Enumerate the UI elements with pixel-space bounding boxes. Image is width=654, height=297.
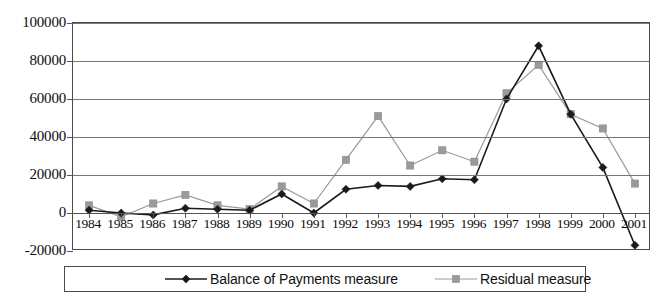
chart-container: 100000800006000040000200000-20000 198419… (0, 0, 654, 297)
y-axis: 100000800006000040000200000-20000 (0, 0, 72, 297)
gridline-0 (73, 213, 649, 214)
legend-label: Residual measure (480, 271, 591, 287)
y-axis-tick-mark (67, 61, 73, 62)
y-axis-tick-mark (67, 137, 73, 138)
x-axis-tick-label: 1993 (364, 216, 390, 232)
x-axis-tick-label: 1991 (300, 216, 326, 232)
y-axis-tick-label: 0 (59, 204, 66, 221)
x-axis-tick-label: 1990 (268, 216, 294, 232)
y-axis-tick-label: 80000 (29, 52, 66, 69)
x-axis-tick-label: 1984 (75, 216, 101, 232)
gridline-100000 (73, 23, 649, 24)
x-axis-tick-label: 1998 (525, 216, 551, 232)
y-axis-tick-label: -20000 (25, 242, 66, 259)
x-axis-tick-label: 1995 (428, 216, 454, 232)
x-axis-tick-label: 1999 (557, 216, 583, 232)
y-axis-tick-mark (67, 23, 73, 24)
legend-item[interactable]: Balance of Payments measure (165, 271, 398, 287)
x-axis-tick-label: 1987 (171, 216, 197, 232)
y-axis-tick-label: 60000 (29, 90, 66, 107)
x-axis-tick-label: 1996 (460, 216, 486, 232)
x-axis-tick-label: 1994 (396, 216, 422, 232)
x-axis-labels: 1984198519861987198819891990199119921993… (72, 216, 650, 236)
x-axis-tick-label: 2001 (621, 216, 647, 232)
legend-item[interactable]: Residual measure (435, 271, 591, 287)
x-axis-tick-label: 2000 (589, 216, 615, 232)
gridline-80000 (73, 61, 649, 62)
gridline-60000 (73, 99, 649, 100)
x-axis-tick-label: 1986 (139, 216, 165, 232)
gridline-20000 (73, 175, 649, 176)
diamond-marker (165, 272, 207, 286)
legend-label: Balance of Payments measure (210, 271, 398, 287)
chart-legend: Balance of Payments measureResidual meas… (64, 266, 586, 292)
y-axis-tick-mark (67, 213, 73, 214)
gridline-40000 (73, 137, 649, 138)
y-axis-tick-label: 40000 (29, 128, 66, 145)
series-residual (85, 61, 638, 220)
x-axis-tick-label: 1988 (204, 216, 230, 232)
y-axis-tick-mark (67, 175, 73, 176)
y-axis-tick-label: 20000 (29, 166, 66, 183)
x-axis-tick-label: 1992 (332, 216, 358, 232)
x-axis-tick-label: 1989 (236, 216, 262, 232)
square-marker (435, 272, 477, 286)
y-axis-tick-mark (67, 251, 73, 252)
x-axis-tick-label: 1985 (107, 216, 133, 232)
x-axis-tick-label: 1997 (493, 216, 519, 232)
y-axis-tick-mark (67, 99, 73, 100)
y-axis-tick-label: 100000 (22, 14, 66, 31)
